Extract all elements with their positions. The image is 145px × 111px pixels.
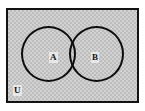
- set-b-label: B: [91, 52, 99, 63]
- venn-diagram-canvas: A B U: [0, 0, 145, 111]
- universal-set-label: U: [13, 85, 22, 96]
- set-a-label: A: [49, 52, 58, 63]
